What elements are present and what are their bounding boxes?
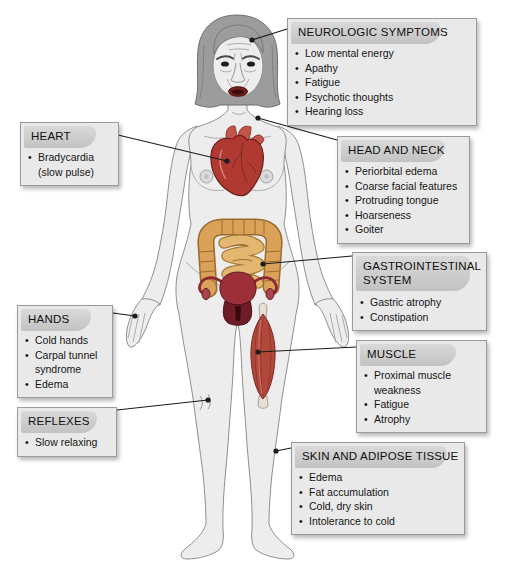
box-title: HEART bbox=[27, 123, 113, 147]
symptom-box-skin: SKIN AND ADIPOSE TISSUE Edema Fat accumu… bbox=[291, 442, 465, 535]
symptom-item: Goiter bbox=[344, 222, 464, 237]
symptom-item: Fat accumulation bbox=[298, 485, 459, 500]
left-eye bbox=[221, 61, 229, 66]
mouth-inner bbox=[232, 89, 244, 94]
box-title: GASTROINTESTINAL SYSTEM bbox=[359, 253, 477, 292]
box-title: HEAD AND NECK bbox=[344, 137, 464, 161]
symptom-box-muscle: MUSCLE Proximal muscle weakness Fatigue … bbox=[356, 340, 487, 433]
symptom-box-head-neck: HEAD AND NECK Periorbital edema Coarse f… bbox=[337, 136, 470, 244]
symptom-item: Psychotic thoughts bbox=[294, 90, 471, 105]
symptom-item: Proximal muscle weakness bbox=[363, 368, 481, 397]
symptom-item: Fatigue bbox=[294, 75, 471, 90]
symptom-list: Edema Fat accumulation Cold, dry skin In… bbox=[298, 470, 459, 528]
symptom-list: Periorbital edema Coarse facial features… bbox=[344, 164, 464, 237]
symptom-item: Gastric atrophy bbox=[359, 295, 481, 310]
symptom-list: Proximal muscle weakness Fatigue Atrophy bbox=[363, 368, 481, 426]
symptom-item: Periorbital edema bbox=[344, 164, 464, 179]
symptom-item: Edema bbox=[298, 470, 459, 485]
symptom-list: Bradycardia (slow pulse) bbox=[27, 150, 113, 179]
symptom-list: Gastric atrophy Constipation bbox=[359, 295, 481, 324]
symptom-list: Cold hands Carpal tunnel syndrome Edema bbox=[24, 333, 107, 391]
symptom-item: Protruding tongue bbox=[344, 193, 464, 208]
symptom-item: Hearing loss bbox=[294, 104, 471, 119]
symptom-item: Cold, dry skin bbox=[298, 499, 459, 514]
symptom-list: Low mental energy Apathy Fatigue Psychot… bbox=[294, 46, 471, 119]
box-title: REFLEXES bbox=[24, 408, 111, 432]
box-title: NEUROLOGIC SYMPTOMS bbox=[294, 19, 471, 43]
symptom-box-heart: HEART Bradycardia (slow pulse) bbox=[20, 122, 119, 186]
symptom-item: Edema bbox=[24, 377, 107, 392]
box-title: HANDS bbox=[24, 306, 107, 330]
box-title: SKIN AND ADIPOSE TISSUE bbox=[298, 443, 459, 467]
symptom-item: Cold hands bbox=[24, 333, 107, 348]
symptom-item: Hoarseness bbox=[344, 208, 464, 223]
symptom-box-gastrointestinal: GASTROINTESTINAL SYSTEM Gastric atrophy … bbox=[352, 252, 487, 331]
symptom-item: Carpal tunnel syndrome bbox=[24, 348, 107, 377]
symptom-list: Slow relaxing bbox=[24, 435, 111, 450]
symptom-box-neurologic: NEUROLOGIC SYMPTOMS Low mental energy Ap… bbox=[287, 18, 477, 126]
symptom-item: Low mental energy bbox=[294, 46, 471, 61]
symptom-item: Slow relaxing bbox=[24, 435, 111, 450]
right-eye bbox=[247, 61, 255, 66]
symptom-box-hands: HANDS Cold hands Carpal tunnel syndrome … bbox=[17, 305, 113, 398]
symptom-box-reflexes: REFLEXES Slow relaxing bbox=[17, 407, 117, 457]
box-title: MUSCLE bbox=[363, 341, 481, 365]
symptom-item: Intolerance to cold bbox=[298, 514, 459, 529]
symptom-item: Atrophy bbox=[363, 412, 481, 427]
symptom-item: Bradycardia (slow pulse) bbox=[27, 150, 113, 179]
symptom-item: Coarse facial features bbox=[344, 179, 464, 194]
symptom-item: Constipation bbox=[359, 310, 481, 325]
symptom-item: Apathy bbox=[294, 61, 471, 76]
symptom-item: Fatigue bbox=[363, 397, 481, 412]
